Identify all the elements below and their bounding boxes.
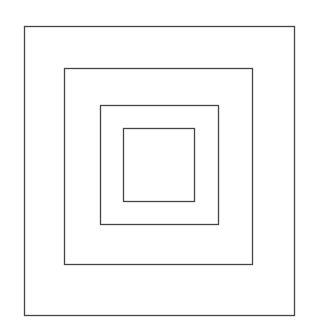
square-second	[65, 69, 253, 265]
nested-squares-diagram	[0, 0, 309, 327]
square-third	[101, 106, 219, 225]
square-inner	[124, 129, 195, 202]
diagram-canvas	[0, 0, 309, 327]
